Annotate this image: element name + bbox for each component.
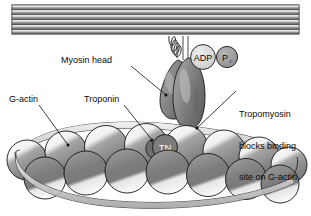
label-troponin: Troponin	[84, 94, 119, 105]
leader-myosin-head	[131, 66, 166, 95]
adp-text: ADP	[194, 53, 213, 63]
thick-filament-stripes	[12, 5, 299, 34]
g-actin-bead	[64, 151, 108, 195]
g-actin-bead	[146, 150, 190, 194]
label-tropomyosin-line3: site on G-actin	[239, 172, 297, 183]
pi-marker: P i	[216, 46, 237, 67]
thick-filament	[12, 5, 299, 34]
myosin-neck-coil	[169, 36, 188, 60]
label-tropomyosin-line1: Tropomyosin	[239, 109, 297, 120]
label-tropomyosin-line2: blocks binding	[239, 141, 297, 152]
label-g-actin: G-actin	[9, 94, 38, 105]
pi-subscript: i	[230, 58, 231, 64]
label-myosin-head: Myosin head	[61, 55, 112, 66]
pi-text: P	[222, 53, 228, 63]
g-actin-bead	[187, 154, 230, 197]
adp-marker: ADP	[191, 45, 216, 70]
g-actin-bead	[105, 149, 149, 193]
muscle-contraction-diagram: ADP P i TN	[0, 0, 311, 216]
label-tropomyosin-block: Tropomyosin blocks binding site on G-act…	[239, 88, 297, 204]
